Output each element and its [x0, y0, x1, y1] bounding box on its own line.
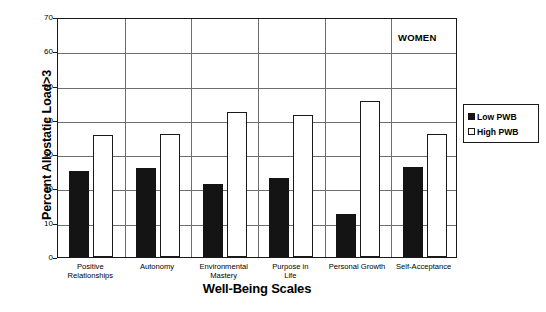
y-tick-mark-0	[53, 258, 57, 259]
x-category-label-4: Purpose inLife	[257, 262, 324, 281]
legend-label-high-pwb: High PWB	[477, 127, 519, 137]
bar-high-pwb-4	[293, 115, 313, 257]
gridline-40	[58, 122, 456, 123]
y-axis-tick-marks	[24, 18, 58, 258]
bar-high-pwb-5	[360, 101, 380, 257]
bar-low-pwb-3	[203, 184, 223, 257]
x-axis-title: Well-Being Scales	[57, 281, 457, 296]
category-divider-4	[325, 19, 326, 257]
x-category-label-3: EnvironmentalMastery	[190, 262, 257, 281]
category-divider-5	[391, 19, 392, 257]
gridline-20	[58, 190, 456, 191]
gridline-60	[58, 53, 456, 54]
open-square-icon	[468, 128, 475, 135]
bar-low-pwb-4	[269, 178, 289, 257]
legend-label-low-pwb: Low PWB	[477, 112, 517, 122]
legend-item-low-pwb: Low PWB	[468, 109, 538, 124]
plot-area	[57, 18, 457, 258]
category-divider-3	[258, 19, 259, 257]
chart-annotation-women: WOMEN	[398, 32, 436, 43]
x-category-label-1: PositiveRelationships	[57, 262, 124, 281]
bar-low-pwb-5	[336, 214, 356, 257]
bar-low-pwb-6	[403, 167, 423, 258]
category-divider-2	[191, 19, 192, 257]
bar-high-pwb-1	[93, 135, 113, 257]
bar-high-pwb-6	[427, 134, 447, 257]
gridline-50	[58, 88, 456, 89]
bar-high-pwb-2	[160, 134, 180, 257]
gridline-10	[58, 225, 456, 226]
gridline-30	[58, 156, 456, 157]
x-category-label-2: Autonomy	[124, 262, 191, 271]
x-category-label-6: Self-Acceptance	[390, 262, 457, 271]
category-divider-1	[125, 19, 126, 257]
bar-low-pwb-1	[69, 171, 89, 257]
bar-low-pwb-2	[136, 168, 156, 257]
bar-chart: Percent Allostatic Load>3 01020304050607…	[0, 0, 546, 312]
filled-square-icon	[468, 113, 475, 120]
legend-item-high-pwb: High PWB	[468, 124, 538, 139]
x-category-label-5: Personal Growth	[324, 262, 391, 271]
chart-legend: Low PWB High PWB	[463, 104, 539, 143]
bar-high-pwb-3	[227, 112, 247, 257]
